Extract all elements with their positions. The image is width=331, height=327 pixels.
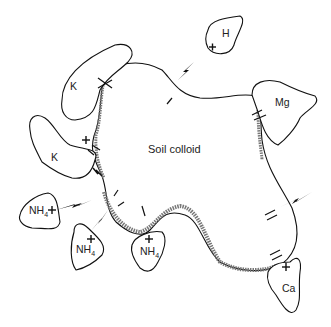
ion-label-nh4-mid: NH4: [76, 243, 95, 257]
lightning-bolt-icon: [90, 210, 108, 232]
lightning-bolt-icon: [178, 62, 194, 80]
ion-label-k-top: K: [70, 80, 77, 92]
ion-label-nh4-left: NH4: [29, 204, 48, 218]
lightning-bolt-icon: [56, 200, 92, 210]
ion-label-mg: Mg: [275, 96, 290, 108]
ion-label-h: H: [222, 27, 230, 39]
ion-label-k-mid: K: [51, 151, 58, 163]
ion-label-nh4-right: NH4: [140, 245, 159, 259]
ion-k-mid-shape: [30, 116, 96, 179]
soil-colloid-label: Soil colloid: [148, 143, 201, 155]
soil-colloid-diagram: [0, 0, 331, 327]
ion-label-ca: Ca: [282, 282, 295, 294]
